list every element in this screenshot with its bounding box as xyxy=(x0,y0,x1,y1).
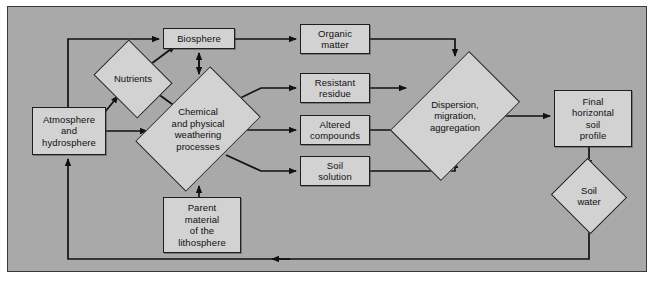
node-organic-matter-label: Organic matter xyxy=(318,28,352,51)
node-final-horizontal-soil-profile[interactable]: Final horizontal soil profile xyxy=(554,90,632,147)
node-biosphere-label: Biosphere xyxy=(177,33,221,45)
node-soil-solution[interactable]: Soil solution xyxy=(300,156,370,186)
node-resistant-residue[interactable]: Resistant residue xyxy=(300,73,370,103)
diagram-canvas: Biosphere Nutrients Atmosphere and hydro… xyxy=(0,0,654,287)
node-atmosphere-hydrosphere-label: Atmosphere and hydrosphere xyxy=(42,114,96,149)
node-parent-material-label: Parent material of the lithosphere xyxy=(178,202,226,248)
node-altered-compounds[interactable]: Altered compounds xyxy=(300,115,370,145)
node-biosphere[interactable]: Biosphere xyxy=(163,28,235,49)
node-dispersion-migration-aggregation[interactable]: Dispersion, migration, aggregation xyxy=(410,60,500,172)
node-organic-matter[interactable]: Organic matter xyxy=(300,24,370,54)
node-atmosphere-hydrosphere[interactable]: Atmosphere and hydrosphere xyxy=(32,107,106,155)
node-chemical-physical-weathering[interactable]: Chemical and physical weathering process… xyxy=(151,76,245,182)
node-final-soil-profile-label: Final horizontal soil profile xyxy=(572,96,614,142)
node-altered-compounds-label: Altered compounds xyxy=(310,119,360,142)
weathering-diamond-shape xyxy=(135,66,260,191)
node-soil-solution-label: Soil solution xyxy=(318,160,352,183)
edge-organic-dispersion xyxy=(370,39,455,56)
node-resistant-residue-label: Resistant residue xyxy=(315,77,356,100)
node-parent-material[interactable]: Parent material of the lithosphere xyxy=(163,197,241,253)
node-soil-water[interactable]: Soil water xyxy=(561,170,617,222)
